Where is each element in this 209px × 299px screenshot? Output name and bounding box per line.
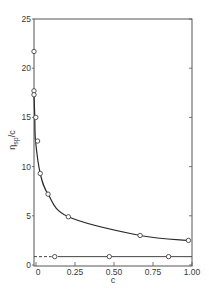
y-axis-ticks: 0510152025 [22,14,192,270]
plot-border [34,19,192,266]
data-lines [34,95,192,257]
y-tick-label: 10 [22,162,32,172]
y-axis-title: ηsp/c [7,130,20,150]
data-point [34,115,38,119]
x-axis-title: c [111,275,116,285]
y-tick-label: 25 [22,14,32,24]
y-tick-label: 20 [22,63,32,73]
x-tick-label: 0.25 [67,267,84,277]
data-point [38,171,42,175]
data-point [138,233,142,237]
data-point [166,254,170,258]
x-tick-label: 0 [36,267,41,277]
x-tick-label: 1.00 [184,267,201,277]
chart: 0510152025 00.250.500.751.00 c ηsp/c [0,0,209,299]
data-point [46,192,50,196]
svg-text:ηsp/c: ηsp/c [7,130,20,150]
data-point [35,139,39,143]
data-point [32,49,36,53]
plot-frame [34,19,192,266]
data-point [66,215,70,219]
y-tick-label: 0 [26,260,31,270]
data-point [32,93,36,97]
data-point [107,254,111,258]
y-tick-label: 5 [26,211,31,221]
data-point [53,254,57,258]
data-point [186,238,190,242]
upper-curve [34,95,188,241]
x-tick-label: 0.75 [145,267,162,277]
y-axis-title-tail: /c [7,130,17,138]
x-axis-ticks: 00.250.500.751.00 [36,262,201,277]
y-tick-label: 15 [22,112,32,122]
data-markers [32,49,191,259]
y-axis-title-sub: sp [12,137,20,145]
